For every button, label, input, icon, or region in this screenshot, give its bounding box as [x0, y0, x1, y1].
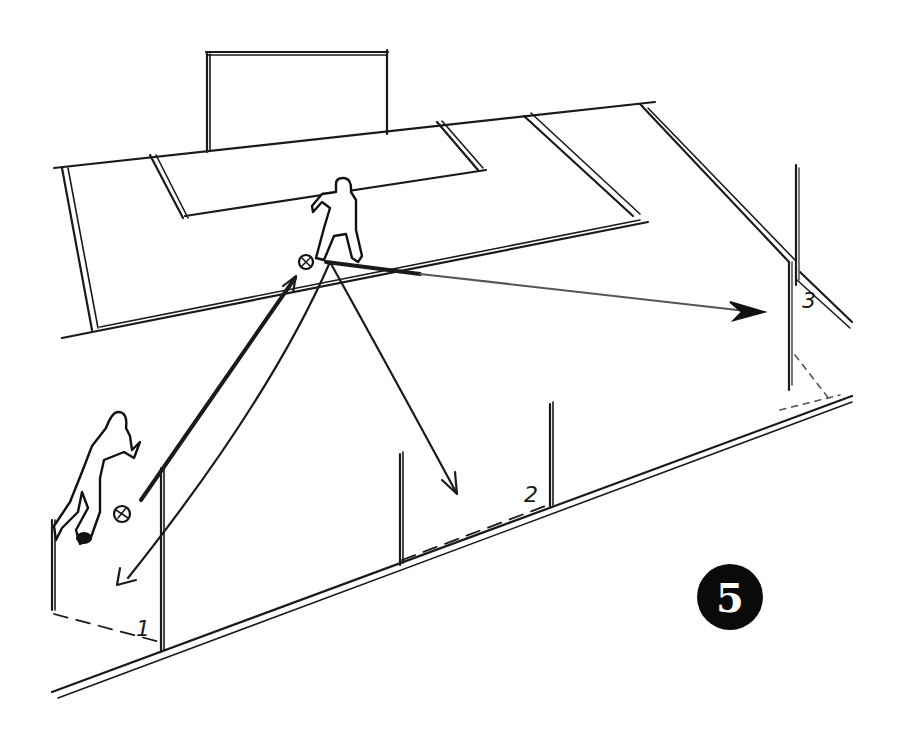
pass-arrow-to-gate-2 — [330, 262, 456, 492]
step-number-badge: 5 — [697, 564, 763, 630]
goal — [206, 50, 388, 152]
receiver-player — [299, 178, 362, 269]
field-sketch: 1 2 3 — [0, 0, 898, 734]
server-player — [54, 412, 140, 544]
pass-arrow-to-gate-1 — [128, 262, 330, 578]
drill-diagram: 1 2 3 5 — [0, 0, 898, 734]
pass-arrows — [117, 262, 764, 585]
touchline — [52, 396, 852, 698]
pass-arrow-to-gate-3 — [420, 274, 755, 312]
pass-arrow-to-receiver — [141, 278, 295, 500]
gate-2-label: 2 — [524, 482, 538, 507]
gate-3-label: 3 — [802, 288, 816, 313]
gate-1-label: 1 — [136, 616, 150, 641]
